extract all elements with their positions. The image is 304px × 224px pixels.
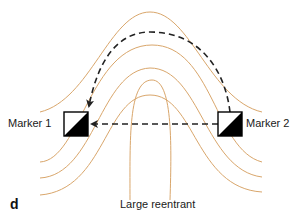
contour-line xyxy=(40,12,262,112)
contour-line xyxy=(40,45,262,162)
marker-2-icon xyxy=(218,112,242,136)
marker-2-label: Marker 2 xyxy=(246,117,289,129)
diagram-caption: Large reentrant xyxy=(120,198,195,210)
marker-1-label: Marker 1 xyxy=(8,117,51,129)
reentrant-diagram xyxy=(0,0,304,224)
contour-line xyxy=(40,95,262,195)
contour-line xyxy=(130,80,171,200)
contour-lines xyxy=(40,12,262,200)
marker-1-icon xyxy=(64,112,88,136)
panel-letter: d xyxy=(10,196,19,212)
